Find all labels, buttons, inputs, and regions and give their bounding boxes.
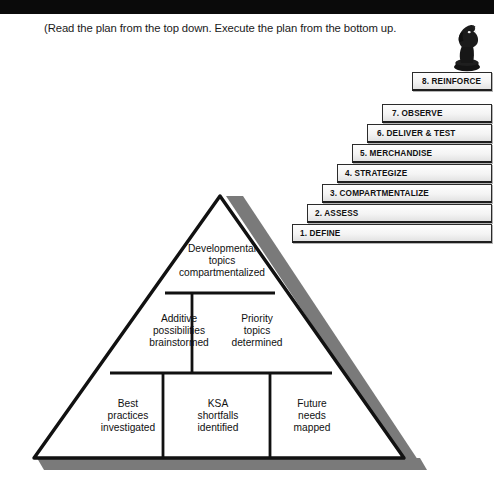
pyramid-cell-priority-topics: Priority topics determined — [211, 313, 303, 350]
pyramid-cell-developmental-topics: Developmental topics compartmentalized — [160, 243, 284, 280]
step-6-deliver-and-test[interactable]: 6. DELIVER & TEST — [367, 124, 492, 143]
page-caption: (Read the plan from the top down. Execut… — [44, 22, 444, 34]
step-label: 8. REINFORCE — [413, 77, 481, 86]
step-label: 5. MERCHANDISE — [353, 149, 432, 158]
step-5-merchandise[interactable]: 5. MERCHANDISE — [352, 144, 492, 163]
top-black-bar — [0, 0, 494, 14]
step-7-observe[interactable]: 7. OBSERVE — [382, 104, 492, 123]
step-label: 4. STRATEGIZE — [338, 169, 407, 178]
chess-knight-icon — [447, 19, 487, 73]
slide-canvas: (Read the plan from the top down. Execut… — [0, 0, 500, 489]
step-label: 6. DELIVER & TEST — [368, 129, 456, 138]
pyramid-cell-ksa-shortfalls: KSA shortfalls identified — [172, 398, 264, 435]
pyramid-cell-best-practices: Best practices investigated — [83, 398, 173, 435]
pyramid-bottom-shadow — [37, 458, 427, 470]
pyramid-cell-future-needs: Future needs mapped — [272, 398, 352, 435]
step-8-reinforce[interactable]: 8. REINFORCE — [412, 72, 492, 91]
step-label: 7. OBSERVE — [383, 109, 443, 118]
